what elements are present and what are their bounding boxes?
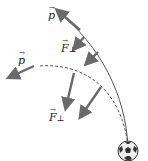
force-arrow-4 — [81, 87, 101, 116]
force-arrow-3 — [66, 73, 74, 107]
label-p-left: →p — [18, 55, 25, 66]
force-arrow-1 — [75, 37, 84, 48]
momentum-force-diagram: →p →p →F⊥ →F⊥ — [0, 0, 148, 161]
force-arrow-2 — [87, 52, 98, 63]
diagram-graphics — [0, 0, 148, 161]
label-f-perp-lower: →F⊥ — [49, 112, 64, 123]
momentum-arrow-top — [58, 11, 80, 30]
label-p-top: →p — [48, 10, 55, 21]
soccer-ball-icon — [118, 141, 138, 161]
momentum-arrow-left — [10, 66, 34, 77]
label-f-perp-upper: →F⊥ — [61, 43, 76, 54]
